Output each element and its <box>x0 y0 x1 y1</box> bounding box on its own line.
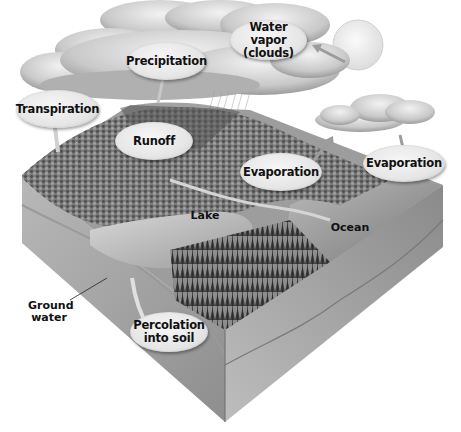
percolation-label-line2: into soil <box>144 332 194 345</box>
water-vapor-label-line1: Water vapor <box>230 21 307 47</box>
small-cloud <box>315 94 435 132</box>
evaporation-ocean-label: Evaporation <box>366 157 442 170</box>
ocean-label: Ocean <box>330 222 370 234</box>
transpiration-bubble: Transpiration <box>16 90 99 128</box>
runoff-label: Runoff <box>133 135 175 148</box>
evaporation-land-label: Evaporation <box>243 166 319 179</box>
ground-water-label-line2: water <box>28 312 70 324</box>
percolation-bubble: Percolation into soil <box>130 312 208 352</box>
transpiration-label: Transpiration <box>16 103 100 116</box>
lake-label: Lake <box>185 210 225 222</box>
ground-water-label: Ground water <box>28 300 70 324</box>
evaporation-ocean-bubble: Evaporation <box>363 145 445 182</box>
evaporation-land-bubble: Evaporation <box>240 153 322 191</box>
runoff-bubble: Runoff <box>115 122 193 160</box>
precipitation-bubble: Precipitation <box>127 42 206 80</box>
water-vapor-label-line2: (clouds) <box>243 47 294 60</box>
precipitation-label: Precipitation <box>126 55 207 68</box>
water-vapor-bubble: Water vapor (clouds) <box>230 20 307 60</box>
water-cycle-illustration <box>0 0 461 432</box>
